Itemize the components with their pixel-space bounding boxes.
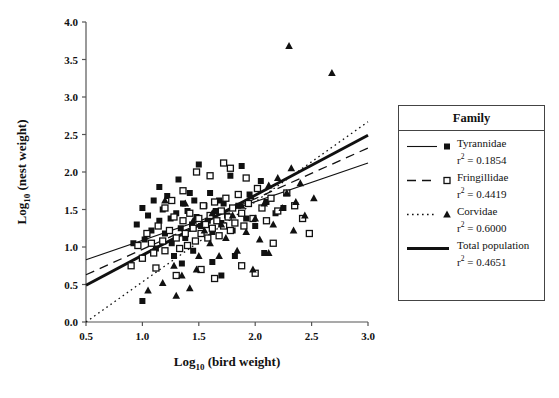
data-point [128, 263, 134, 269]
y-tick-label: 0.5 [64, 279, 78, 291]
data-point [270, 240, 276, 246]
data-point [239, 163, 245, 169]
series-corvidae [144, 42, 335, 299]
y-tick-label: 3.0 [64, 91, 78, 103]
data-point [207, 190, 213, 196]
data-point [151, 250, 157, 256]
data-point [187, 210, 193, 216]
data-point [274, 174, 282, 181]
data-point [155, 223, 161, 229]
data-point [156, 184, 162, 190]
data-point [175, 177, 181, 183]
data-point [239, 210, 245, 216]
data-point [182, 231, 188, 237]
data-point [258, 178, 264, 184]
x-tick-label: 1.5 [192, 330, 206, 342]
legend-entry-r2: r2 = 0.6000 [457, 218, 506, 235]
legend-entry-label: Fringillidae [457, 171, 508, 184]
data-point [148, 240, 154, 246]
data-point [135, 243, 141, 249]
legend-entry-fringillidae: Fringillidaer2 = 0.4419 [399, 171, 544, 200]
data-point [230, 205, 236, 211]
data-point [151, 198, 157, 204]
y-tick-label: 1.5 [64, 204, 78, 216]
x-tick-label: 2.0 [248, 330, 262, 342]
data-point [269, 221, 277, 228]
legend-entry-text: Fringillidaer2 = 0.4419 [457, 171, 508, 200]
data-point [227, 165, 233, 171]
data-point [243, 175, 249, 181]
legend-entry-r2: r2 = 0.1854 [457, 150, 506, 167]
svg-text:Log10 (bird weight): Log10 (bird weight) [174, 354, 281, 372]
x-tick-label: 2.5 [305, 330, 319, 342]
data-point [306, 231, 312, 237]
data-point [172, 292, 180, 299]
data-point [196, 162, 202, 168]
data-point [144, 231, 150, 237]
data-point [254, 186, 260, 192]
legend-entry-r2: r2 = 0.4651 [457, 252, 529, 269]
data-point [209, 259, 215, 265]
data-point [180, 218, 186, 224]
svg-text:Log10 (nest weight): Log10 (nest weight) [14, 119, 32, 224]
data-point [153, 265, 159, 271]
data-point [192, 238, 198, 244]
data-point [196, 216, 202, 222]
data-point [256, 236, 264, 243]
data-point [173, 273, 179, 279]
legend-entry-r2: r2 = 0.4419 [457, 184, 508, 201]
data-point [159, 279, 167, 286]
data-point [142, 237, 148, 243]
data-point [216, 233, 222, 239]
data-point [134, 222, 140, 228]
y-tick-label: 4.0 [64, 16, 78, 28]
data-point [227, 173, 233, 179]
legend-marker-sample [444, 178, 450, 184]
data-point [249, 266, 257, 273]
data-point [232, 220, 238, 226]
legend-key [405, 207, 457, 222]
legend-entry-corvidae: Corvidaer2 = 0.6000 [399, 205, 544, 234]
data-point [239, 263, 245, 269]
data-point [162, 248, 168, 254]
legend-entry-label: Corvidae [457, 205, 506, 218]
y-tick-label: 2.5 [64, 129, 78, 141]
data-point [214, 218, 220, 224]
data-point [145, 213, 151, 219]
data-point [287, 164, 295, 171]
data-point [268, 195, 274, 201]
legend-title: Family [399, 106, 544, 131]
data-point [177, 246, 183, 252]
data-point [263, 218, 269, 224]
data-point [209, 225, 215, 231]
data-point [212, 276, 218, 282]
data-point [212, 199, 218, 205]
data-point [218, 273, 224, 279]
data-point [207, 173, 213, 179]
data-point [173, 235, 179, 241]
data-point [179, 261, 185, 267]
data-point [194, 169, 200, 175]
data-point [222, 234, 230, 241]
data-point [221, 160, 227, 166]
legend-marker-sample [444, 144, 450, 150]
legend-entry-label: Total population [457, 239, 529, 252]
data-point [290, 227, 298, 234]
data-points-layer [128, 42, 336, 304]
data-point [310, 194, 318, 201]
legend-key [405, 139, 457, 154]
data-point [235, 192, 241, 198]
data-point [144, 287, 152, 294]
axes-layer: 0.00.51.01.52.02.53.03.54.00.51.01.52.02… [64, 16, 375, 342]
data-point [245, 201, 251, 207]
legend-key [405, 173, 457, 188]
data-point [180, 188, 186, 194]
data-point [162, 205, 168, 211]
data-point [191, 198, 197, 204]
regression-lines-layer [86, 122, 368, 322]
y-tick-label: 0.0 [64, 316, 78, 328]
data-point [285, 42, 293, 49]
data-point [190, 225, 196, 231]
data-point [160, 238, 166, 244]
data-point [187, 190, 193, 196]
